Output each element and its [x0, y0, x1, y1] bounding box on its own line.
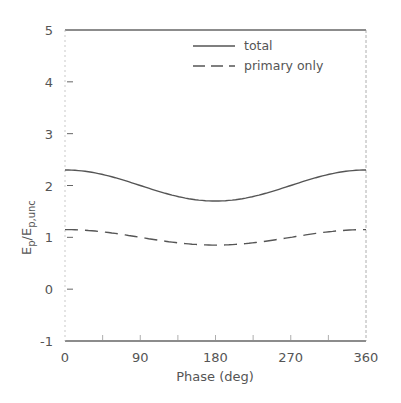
- series-primary-only-line: [65, 230, 366, 246]
- x-tick-label: 360: [354, 350, 379, 365]
- legend-label-total: total: [244, 38, 273, 53]
- x-tick-label: 180: [203, 350, 228, 365]
- x-tick-label: 0: [61, 350, 69, 365]
- y-tick-label: 2: [45, 179, 53, 194]
- legend: total primary only: [193, 38, 324, 73]
- y-axis-title: Ep/Ep,unc: [19, 200, 37, 255]
- y-tick-label: -1: [40, 334, 53, 349]
- y-tick-label: 0: [45, 282, 53, 297]
- y-tick-label: 4: [45, 75, 53, 90]
- series-total-line: [65, 170, 366, 201]
- y-tick-label: 3: [45, 127, 53, 142]
- chart: -1012345 090180270360 total primary only…: [0, 0, 401, 403]
- x-tick-label: 270: [278, 350, 303, 365]
- x-axis-title: Phase (deg): [176, 369, 254, 384]
- y-tick-label: 1: [45, 230, 53, 245]
- y-tick-label: 5: [45, 23, 53, 38]
- y-ticks: -1012345: [40, 23, 73, 349]
- svg-text:Ep/Ep,unc: Ep/Ep,unc: [19, 200, 37, 255]
- x-tick-label: 90: [132, 350, 149, 365]
- legend-label-primary-only: primary only: [244, 58, 324, 73]
- x-ticks: 090180270360: [61, 335, 379, 365]
